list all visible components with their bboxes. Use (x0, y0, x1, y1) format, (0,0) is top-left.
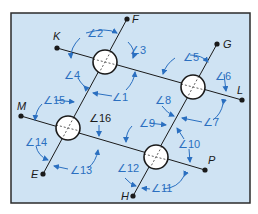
angle-10-label: ∠10 (178, 138, 200, 150)
label-M: M (17, 100, 27, 112)
label-G: G (223, 38, 232, 50)
angle-9-label: ∠9 (139, 117, 155, 129)
label-E: E (31, 168, 39, 180)
angle-2-label: ∠2 (87, 27, 103, 39)
point-E (40, 171, 45, 176)
angle-12-label: ∠12 (117, 162, 139, 174)
label-P: P (208, 154, 216, 166)
label-K: K (53, 30, 61, 42)
point-G (214, 41, 219, 46)
point-F (124, 16, 129, 21)
angle-7-label: ∠7 (203, 116, 219, 128)
point-L (239, 97, 244, 102)
diagram-frame (11, 13, 250, 203)
angle-8-label: ∠8 (155, 94, 171, 106)
intersection-marker (56, 116, 80, 140)
label-H: H (121, 190, 129, 202)
angle-15-label: ∠15 (43, 94, 65, 106)
point-P (202, 167, 207, 172)
intersection-marker (181, 75, 205, 99)
point-K (54, 45, 59, 50)
angle-6-label: ∠6 (215, 70, 231, 82)
angle-4-label: ∠4 (64, 69, 80, 81)
point-M (18, 113, 23, 118)
angle-13-label: ∠13 (70, 164, 92, 176)
parallel-lines-diagram: K L M P F E G H ∠1 ∠2 ∠3 ∠4 ∠5 ∠6 ∠7 ∠8 … (0, 0, 258, 214)
angle-16-label: ∠16 (89, 112, 111, 124)
label-L: L (237, 84, 243, 96)
intersection-marker (144, 145, 168, 169)
angle-3-label: ∠3 (130, 44, 146, 56)
angle-11-label: ∠11 (151, 182, 172, 194)
angle-5-label: ∠5 (183, 51, 199, 63)
intersection-marker (93, 50, 117, 74)
angle-1-label: ∠1 (112, 91, 128, 103)
angle-14-label: ∠14 (25, 136, 47, 148)
point-H (130, 193, 135, 198)
